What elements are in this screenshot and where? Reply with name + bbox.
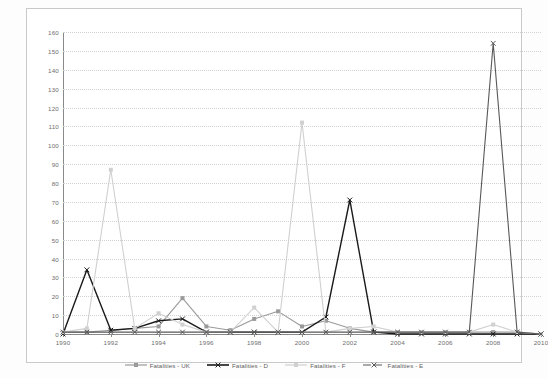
legend-label: Fatalities - F [310, 362, 345, 369]
y-tick-label: 160 [48, 29, 63, 36]
chart-card: 0102030405060708090100110120130140150160… [26, 8, 522, 363]
x-tick-label: 2004 [390, 339, 405, 346]
y-tick-label: 110 [49, 123, 63, 130]
x-tick-label: 1998 [247, 339, 262, 346]
legend-item-0[interactable]: Fatalities - UK [125, 361, 190, 369]
y-tick-label: 100 [48, 142, 63, 149]
chart-page: 0102030405060708090100110120130140150160… [0, 0, 548, 378]
y-tick-label: 70 [52, 198, 63, 205]
y-tick-label: 20 [52, 293, 63, 300]
plot-area: 0102030405060708090100110120130140150160… [63, 32, 541, 334]
x-tick-label: 2006 [438, 339, 453, 346]
x-tick-label: 1990 [56, 339, 71, 346]
y-tick-label: 90 [52, 161, 63, 168]
legend-item-3[interactable]: Fatalities - E [363, 361, 424, 369]
legend-label: Fatalities - D [232, 362, 268, 369]
legend-label: Fatalities - UK [150, 362, 190, 369]
legend-item-2[interactable]: Fatalities - F [285, 361, 345, 369]
x-tick-mark [111, 334, 112, 337]
y-tick-label: 50 [52, 236, 63, 243]
x-tick-mark [206, 334, 207, 337]
legend-swatch-icon [363, 361, 385, 369]
x-tick-label: 2008 [486, 339, 501, 346]
y-tick-label: 40 [52, 255, 63, 262]
x-tick-label: 2000 [295, 339, 310, 346]
x-tick-mark [350, 334, 351, 337]
legend-label: Fatalities - E [388, 362, 424, 369]
y-tick-label: 140 [48, 66, 63, 73]
x-tick-mark [159, 334, 160, 337]
legend-item-1[interactable]: Fatalities - D [207, 361, 268, 369]
y-tick-label: 80 [52, 180, 63, 187]
x-tick-label: 1994 [151, 339, 166, 346]
y-tick-label: 130 [48, 85, 63, 92]
x-tick-label: 1996 [199, 339, 214, 346]
y-tick-label: 30 [52, 274, 63, 281]
y-tick-label: 150 [48, 47, 63, 54]
x-tick-label: 2002 [343, 339, 358, 346]
series-2 [61, 121, 543, 336]
legend-swatch-icon [207, 361, 229, 369]
legend-swatch-icon [285, 361, 307, 369]
x-tick-mark [254, 334, 255, 337]
y-tick-label: 60 [52, 217, 63, 224]
y-tick-label: 10 [52, 312, 63, 319]
x-tick-mark [302, 334, 303, 337]
chart-legend: Fatalities - UKFatalities - DFatalities … [27, 361, 521, 369]
x-tick-label: 1992 [104, 339, 119, 346]
series-3 [61, 41, 544, 336]
y-tick-label: 120 [48, 104, 63, 111]
series-layer [63, 32, 541, 334]
legend-swatch-icon [125, 361, 147, 369]
x-tick-label: 2010 [534, 339, 548, 346]
